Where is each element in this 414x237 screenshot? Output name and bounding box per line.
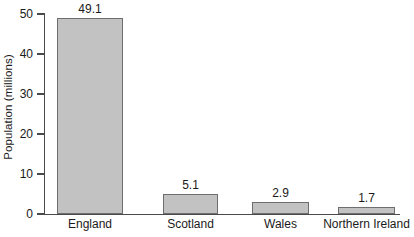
bar-chart: Population (millions) 01020304050 49.15.… [0,0,414,237]
x-axis-label-northern-ireland: Northern Ireland [307,217,414,232]
bar-wales[interactable] [252,202,309,214]
bar-value-label: 5.1 [182,179,199,191]
bar-value-label: 2.9 [272,187,289,199]
bar-group[interactable]: 49.1 [57,14,123,214]
bar-scotland[interactable] [163,194,218,214]
y-axis-tick-label: 50 [0,8,33,20]
y-axis-tick-label: 20 [0,128,33,140]
y-axis-title: Population (millions) [0,0,16,214]
bar-group[interactable]: 2.9 [252,14,309,214]
bar-england[interactable] [57,18,123,214]
plot-area: 49.15.12.91.7 [44,14,400,214]
bar-value-label: 1.7 [358,192,375,204]
y-axis-tick-label: 0 [0,208,33,220]
bar-group[interactable]: 1.7 [338,14,395,214]
bar-northern-ireland[interactable] [338,207,395,214]
bar-value-label: 49.1 [78,3,101,15]
y-axis-tick-label: 40 [0,48,33,60]
bar-group[interactable]: 5.1 [163,14,218,214]
y-axis-title-text: Population (millions) [2,54,14,160]
y-axis-tick-label: 10 [0,168,33,180]
y-axis-tick-label: 30 [0,88,33,100]
